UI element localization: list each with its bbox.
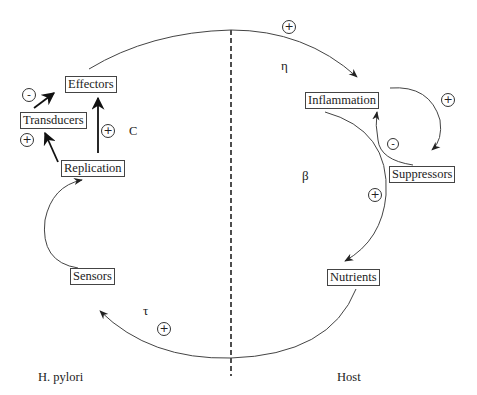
node-suppressors: Suppressors (389, 166, 455, 183)
sign-plus-replication-to-effectors: + (101, 124, 115, 138)
label-tau: τ (143, 303, 148, 319)
sign-plus-inflammation-to-suppressors: + (441, 93, 455, 107)
arc-effectors-to-inflammation (89, 30, 357, 77)
sign-minus-suppressors-to-inflammation: - (387, 138, 399, 150)
sign-plus-inflammation-to-nutrients: + (368, 188, 382, 202)
label-beta: β (302, 168, 309, 184)
node-inflammation: Inflammation (305, 92, 379, 109)
arrow-replication-to-transducers (45, 133, 58, 162)
sign-plus-effectors-to-host: + (282, 20, 296, 34)
diagram-canvas (0, 0, 477, 395)
node-nutrients: Nutrients (327, 269, 380, 286)
label-c: C (129, 124, 137, 139)
node-replication: Replication (61, 160, 125, 177)
arc-sensors-to-replication (44, 180, 82, 268)
node-effectors: Effectors (65, 76, 117, 93)
arc-nutrients-to-sensors (100, 289, 356, 358)
sign-plus-replication-to-transducers: + (20, 133, 34, 147)
node-transducers: Transducers (20, 112, 87, 129)
node-sensors: Sensors (70, 268, 115, 285)
sign-minus-transducers-to-effectors: - (22, 88, 36, 102)
label-eta: η (281, 58, 288, 74)
arrow-transducers-to-effectors (34, 93, 54, 108)
region-label-h-pylori: H. pylori (38, 370, 83, 385)
sign-plus-host-to-sensors: + (157, 322, 171, 336)
region-label-host: Host (337, 370, 361, 385)
